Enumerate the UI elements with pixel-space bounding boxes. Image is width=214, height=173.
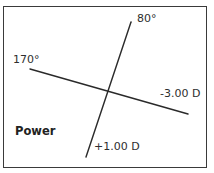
power-label-170-meridian: -3.00 D xyxy=(160,88,200,100)
angle-label-170: 170° xyxy=(13,54,40,66)
diagram-title-power: Power xyxy=(15,125,55,137)
meridian-line-80 xyxy=(86,22,131,157)
angle-label-80: 80° xyxy=(137,13,157,25)
power-label-80-meridian: +1.00 D xyxy=(94,141,140,153)
